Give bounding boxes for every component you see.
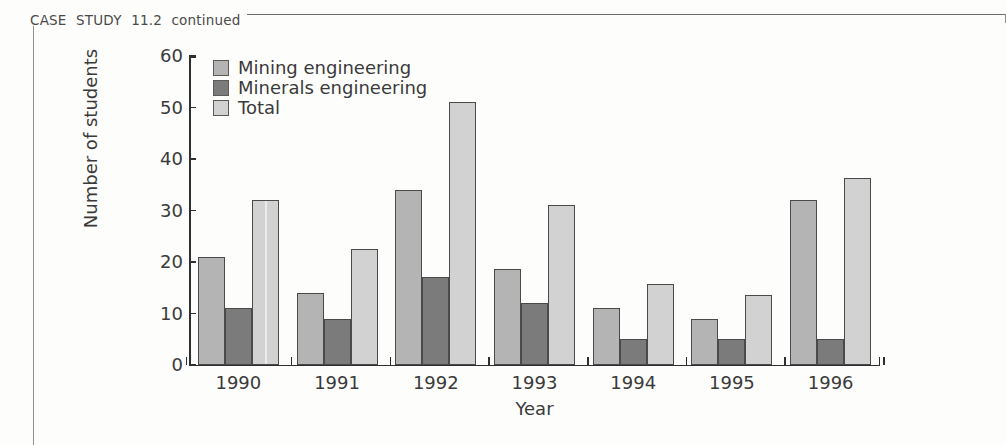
x-tick-label: 1995 [692,372,772,393]
legend-swatch [213,100,229,116]
bar [449,102,476,365]
x-tick-label: 1996 [791,372,871,393]
y-tick-label: 10 [0,303,183,324]
x-tick-label: 1993 [495,372,575,393]
x-tick-label: 1994 [593,372,673,393]
legend-label: Total [238,99,280,117]
bar [198,257,225,365]
x-axis-title: Year [189,398,880,419]
bar [647,284,674,365]
bar [494,269,521,365]
grouped-bar-chart: 0102030405060 Number of students 1990199… [0,0,1006,445]
legend-swatch [213,60,229,76]
legend-label: Mining engineering [238,59,411,77]
bar [422,277,449,365]
bar [395,190,422,365]
legend-item: Mining engineering [213,58,427,78]
legend-label: Minerals engineering [238,79,427,97]
bar [718,339,745,365]
bar [593,308,620,365]
y-tick-label: 0 [0,354,183,375]
bar [324,319,351,365]
bar [620,339,647,365]
x-tick [883,357,885,365]
bar [297,293,324,365]
x-tick-label: 1992 [396,372,476,393]
bar [745,295,772,365]
chart-legend: Mining engineeringMinerals engineeringTo… [213,58,427,118]
legend-item: Total [213,98,427,118]
bar [844,178,871,365]
bar [252,200,279,365]
bar [817,339,844,365]
legend-item: Minerals engineering [213,78,427,98]
y-tick-label: 20 [0,251,183,272]
bar [691,319,718,365]
scan-streak [265,201,267,364]
bar [351,249,378,365]
bar [548,205,575,365]
legend-swatch [213,80,229,96]
x-tick-label: 1991 [297,372,377,393]
x-tick-label: 1990 [198,372,278,393]
bar [225,308,252,365]
y-axis-title: Number of students [80,39,101,239]
bar [521,303,548,365]
x-tick [186,357,188,365]
bar [790,200,817,365]
